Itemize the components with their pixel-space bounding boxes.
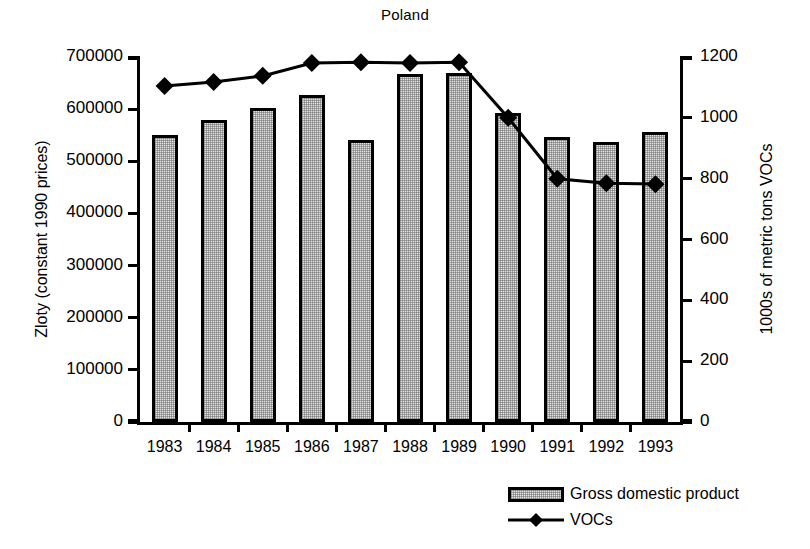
y-axis-left-tick-label: 100000 <box>66 359 123 379</box>
x-axis-tick <box>286 422 289 432</box>
y-axis-left-tick-label: 600000 <box>66 98 123 118</box>
axis-end-cap <box>128 419 140 422</box>
x-axis-tick <box>188 422 191 432</box>
x-axis-tick-label: 1987 <box>336 438 385 456</box>
bar-swatch-icon <box>508 487 564 502</box>
axis-end-cap <box>680 419 692 422</box>
x-axis-tick <box>384 422 387 432</box>
x-axis-tick-label: 1983 <box>140 438 189 456</box>
vocs-diamond-marker <box>352 53 370 71</box>
y-axis-left-tick-label: 300000 <box>66 255 123 275</box>
y-axis-left-tick <box>128 108 140 111</box>
y-axis-right-tick <box>680 360 692 363</box>
axis-end-cap <box>680 57 692 60</box>
vocs-diamond-marker <box>156 77 174 95</box>
y-axis-left-tick <box>128 160 140 163</box>
vocs-diamond-marker <box>254 67 272 85</box>
plot-area <box>140 57 680 422</box>
y-axis-right-tick-label: 800 <box>700 168 728 188</box>
x-axis-tick <box>580 422 583 432</box>
vocs-diamond-marker <box>646 175 664 193</box>
y-axis-right-tick-label: 0 <box>700 411 709 431</box>
y-axis-right-title: 1000s of metric tons VOCs <box>758 69 776 409</box>
line-series-vocs <box>140 57 680 422</box>
y-axis-right-tick <box>680 238 692 241</box>
y-axis-right-tick-label: 1000 <box>700 107 738 127</box>
vocs-polyline <box>165 62 656 184</box>
x-axis-spine <box>137 422 683 425</box>
x-axis-tick <box>482 422 485 432</box>
y-axis-right-tick-label: 600 <box>700 229 728 249</box>
x-axis-tick <box>237 422 240 432</box>
y-axis-left-tick-label: 700000 <box>66 46 123 66</box>
y-axis-left-tick-label: 400000 <box>66 202 123 222</box>
y-axis-right-tick <box>680 116 692 119</box>
vocs-diamond-marker <box>205 73 223 91</box>
x-axis-tick-label: 1986 <box>287 438 336 456</box>
x-axis-tick-label: 1988 <box>385 438 434 456</box>
y-axis-left-tick-label: 500000 <box>66 150 123 170</box>
chart-title: Poland <box>0 6 810 23</box>
y-axis-left-tick-label: 0 <box>114 411 123 431</box>
legend-item-vocs[interactable]: VOCs <box>508 507 739 533</box>
y-axis-right-tick-label: 200 <box>700 350 728 370</box>
legend-item-gross-domestic-product[interactable]: Gross domestic product <box>508 481 739 507</box>
y-axis-right-tick <box>680 299 692 302</box>
chart-legend: Gross domestic product VOCs <box>508 481 739 533</box>
y-axis-left-tick-label: 200000 <box>66 307 123 327</box>
y-axis-left-tick <box>128 212 140 215</box>
vocs-diamond-marker <box>401 54 419 72</box>
vocs-diamond-marker <box>303 54 321 72</box>
legend-label-gross-domestic-product: Gross domestic product <box>570 485 739 503</box>
y-axis-right-tick-labels: 020040060080010001200 <box>700 57 760 422</box>
x-axis-tick <box>433 422 436 432</box>
axis-end-cap <box>128 57 140 60</box>
x-axis-tick-label: 1992 <box>582 438 631 456</box>
chart-figure: Poland Zloty (constant 1990 prices) 1000… <box>0 0 810 549</box>
y-axis-right-tick-label: 400 <box>700 289 728 309</box>
y-axis-left-tick <box>128 316 140 319</box>
y-axis-left-tick-labels: 0100000200000300000400000500000600000700… <box>18 57 123 422</box>
x-axis-tick <box>629 422 632 432</box>
vocs-diamond-marker <box>597 174 615 192</box>
x-axis-tick-label: 1991 <box>533 438 582 456</box>
x-axis-tick-label: 1993 <box>631 438 680 456</box>
x-axis-tick <box>335 422 338 432</box>
y-axis-right-tick <box>680 177 692 180</box>
x-axis-tick-label: 1984 <box>189 438 238 456</box>
y-axis-left-tick <box>128 368 140 371</box>
x-axis-tick-label: 1990 <box>484 438 533 456</box>
y-axis-right-tick-label: 1200 <box>700 46 738 66</box>
x-axis-tick <box>531 422 534 432</box>
vocs-markers <box>156 53 665 193</box>
x-axis-tick-label: 1985 <box>238 438 287 456</box>
legend-label-vocs: VOCs <box>570 511 613 529</box>
y-axis-left-tick <box>128 264 140 267</box>
line-diamond-swatch-icon <box>508 511 564 529</box>
x-axis-tick-label: 1989 <box>435 438 484 456</box>
